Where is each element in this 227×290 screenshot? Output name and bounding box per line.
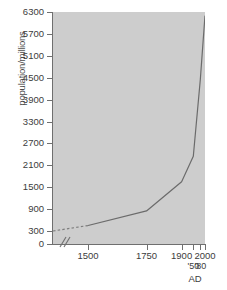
x-tick-label: 1500	[68, 250, 108, 261]
y-tick-label: 5100	[4, 50, 44, 61]
x-axis-title: AD	[175, 273, 215, 284]
y-tick	[47, 122, 52, 123]
plot-area	[53, 12, 205, 244]
y-tick-label: 1500	[4, 181, 44, 192]
y-axis-line	[52, 12, 53, 245]
y-tick-label: 300	[4, 225, 44, 236]
y-tick-label: 3300	[4, 116, 44, 127]
x-tick-label: 1750	[127, 250, 167, 261]
y-tick	[47, 187, 52, 188]
y-tick	[47, 231, 52, 232]
axis-break-icon	[57, 235, 73, 249]
x-axis-line	[52, 244, 206, 245]
y-tick	[47, 12, 52, 13]
y-tick-label: 3900	[4, 94, 44, 105]
y-tick	[47, 78, 52, 79]
y-tick-label: 2700	[4, 137, 44, 148]
population-curve-solid-segment	[88, 16, 205, 226]
y-tick	[47, 165, 52, 166]
y-tick-label: 6300	[4, 6, 44, 17]
x-tick-label: 2000	[185, 250, 225, 261]
y-tick	[47, 244, 52, 245]
population-curve-dashed-segment	[53, 226, 88, 231]
y-tick	[47, 100, 52, 101]
y-tick	[47, 143, 52, 144]
y-tick-label: 5700	[4, 28, 44, 39]
data-curve-svg	[53, 12, 205, 244]
y-tick	[47, 209, 52, 210]
y-tick-label: 900	[4, 203, 44, 214]
y-tick	[47, 56, 52, 57]
y-tick	[47, 34, 52, 35]
y-tick-label: 2100	[4, 159, 44, 170]
y-tick-label: 0	[4, 238, 44, 249]
y-tick-label: 4500	[4, 72, 44, 83]
x-tick-label: '80	[180, 261, 220, 271]
population-chart-figure: population/millions 03009001500210027003…	[0, 0, 227, 290]
